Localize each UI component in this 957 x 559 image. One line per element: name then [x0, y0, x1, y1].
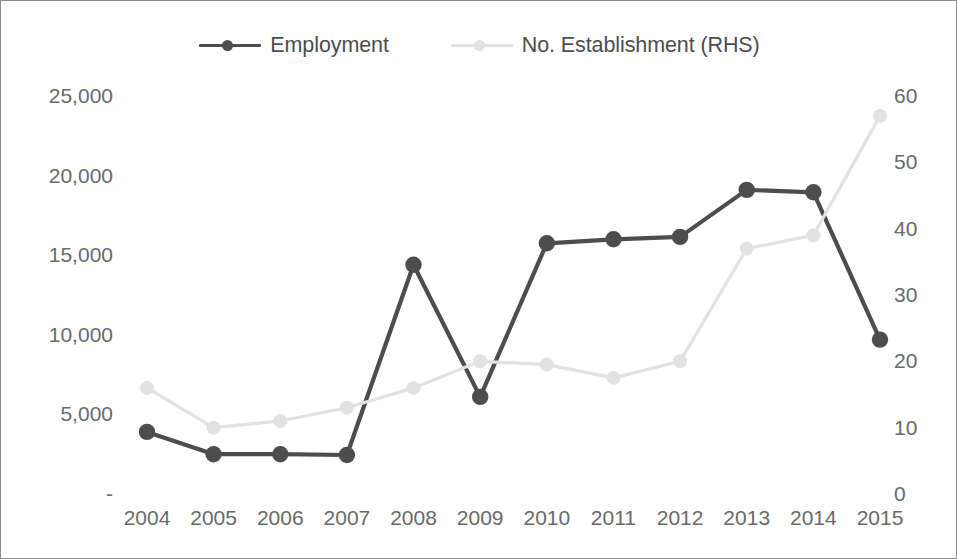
data-point-marker [805, 184, 821, 200]
data-point-marker [272, 446, 288, 462]
data-point-marker [607, 371, 621, 385]
data-point-marker [872, 331, 888, 347]
data-point-marker [539, 235, 555, 251]
data-point-marker [806, 228, 820, 242]
data-point-marker [739, 182, 755, 198]
data-point-marker [740, 242, 754, 256]
data-point-marker [139, 424, 155, 440]
data-point-marker [207, 421, 221, 435]
series-establishment [140, 109, 887, 435]
series-line [147, 116, 880, 428]
data-point-marker [339, 447, 355, 463]
series-line [147, 190, 880, 455]
data-point-marker [273, 414, 287, 428]
data-point-marker [405, 257, 421, 273]
plot-area [1, 1, 957, 559]
data-point-marker [540, 358, 554, 372]
chart-figure: Employment No. Establishment (RHS) 25,00… [0, 0, 957, 559]
data-point-marker [472, 389, 488, 405]
data-point-marker [340, 401, 354, 415]
data-point-marker [672, 229, 688, 245]
series-employment [139, 182, 888, 464]
chart-svg [1, 1, 957, 559]
data-point-marker [205, 446, 221, 462]
data-point-marker [140, 381, 154, 395]
data-point-marker [473, 354, 487, 368]
data-point-marker [673, 354, 687, 368]
data-point-marker [605, 231, 621, 247]
data-point-marker [407, 381, 421, 395]
data-point-marker [873, 109, 887, 123]
